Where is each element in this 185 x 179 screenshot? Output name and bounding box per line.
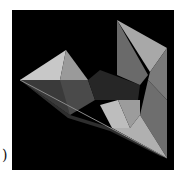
polyhedron-render [0, 0, 185, 179]
panel-label: ) [2, 148, 7, 162]
figure-panel: ) [0, 0, 185, 179]
